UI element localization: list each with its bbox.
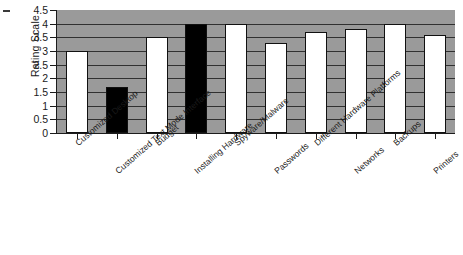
y-axis-tick-mark xyxy=(50,10,57,11)
x-axis-tick-mark xyxy=(395,134,396,139)
y-axis-tick-mark xyxy=(50,133,57,134)
y-axis-tick-label: 3 xyxy=(8,46,48,57)
y-axis-tick-mark xyxy=(50,51,57,52)
y-axis-tick-mark xyxy=(50,24,57,25)
y-axis-tick-mark xyxy=(50,65,57,66)
bar-chart-figure: Rating Scale 00.511.522.533.544.5 Custom… xyxy=(0,0,463,255)
y-axis-tick-mark xyxy=(50,37,57,38)
y-axis-tick-label: 1 xyxy=(8,101,48,112)
y-axis-tick-label: 3.5 xyxy=(8,32,48,43)
x-axis-tick-mark xyxy=(435,134,436,139)
bar xyxy=(185,24,207,133)
y-axis-tick-labels: 00.511.522.533.544.5 xyxy=(2,0,48,255)
y-axis-tick-mark xyxy=(50,78,57,79)
x-axis-tick-mark xyxy=(77,134,78,139)
x-axis-tick-mark xyxy=(276,134,277,139)
y-axis-tick-label: 0 xyxy=(8,128,48,139)
bar xyxy=(305,32,327,133)
x-axis-tick-label: Networks xyxy=(353,145,386,175)
bar xyxy=(424,35,446,133)
x-axis-tick-mark xyxy=(316,134,317,139)
y-axis-tick-label: 4 xyxy=(8,19,48,30)
x-axis-tick-mark xyxy=(236,134,237,139)
y-axis-tick-label: 1.5 xyxy=(8,87,48,98)
y-axis-tick-label: 0.5 xyxy=(8,114,48,125)
bar xyxy=(225,24,247,133)
bar xyxy=(66,51,88,133)
x-axis-tick-mark xyxy=(117,134,118,139)
x-axis-tick-label: Printers xyxy=(432,150,460,176)
y-axis-tick-mark xyxy=(50,119,57,120)
y-axis-tick-label: 2 xyxy=(8,73,48,84)
x-axis-tick-mark xyxy=(157,134,158,139)
y-axis-tick-label: 4.5 xyxy=(8,5,48,16)
bar xyxy=(146,37,168,133)
y-axis-tick-mark xyxy=(50,106,57,107)
y-axis-tick-mark xyxy=(50,92,57,93)
x-axis-tick-mark xyxy=(356,134,357,139)
y-axis-line xyxy=(56,10,57,134)
x-axis-tick-mark xyxy=(196,134,197,139)
y-axis-tick-label: 2.5 xyxy=(8,60,48,71)
x-axis-tick-label: Passwords xyxy=(273,141,311,175)
